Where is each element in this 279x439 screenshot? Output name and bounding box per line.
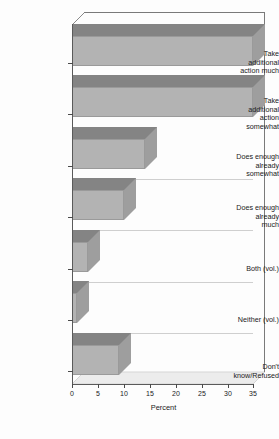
bar-front-face [72,242,88,272]
y-tick [68,114,73,115]
y-axis-label-both-vol: Both (vol.) [211,265,279,274]
y-tick [68,371,73,372]
bar-top-face [72,75,265,87]
x-tick [72,384,73,388]
y-tick [68,269,73,270]
bar-front-face [72,345,119,375]
x-tick-label: 15 [140,390,160,397]
x-tick [150,384,151,388]
y-axis-label-does-enough-already-somewhat: Does enough already somewhat [211,153,279,179]
y-tick [68,320,73,321]
x-tick [124,384,125,388]
x-tick-label: 10 [114,390,134,397]
x-tick [228,384,229,388]
x-tick-label: 0 [62,390,82,397]
y-axis-label-dont-know-refused: Don't know/Refused [211,363,279,380]
x-axis-line [72,384,254,385]
bar-front-face [72,139,145,169]
y-axis-label-neither-vol: Neither (vol.) [211,316,279,325]
y-axis-label-does-enough-already-much: Does enough already much [211,204,279,230]
y-axis-label-take-additional-action-somewhat: Take additional action somewhat [211,97,279,131]
y-axis-label-take-additional-action-much: Take additional action much [211,50,279,76]
x-tick [98,384,99,388]
x-tick [176,384,177,388]
bar-top-face [72,24,265,36]
x-axis-title: Percent [0,403,279,412]
gridline [72,282,253,283]
y-axis-line [72,24,73,384]
x-tick [202,384,203,388]
y-tick [68,217,73,218]
x-tick-label: 5 [88,390,108,397]
x-tick-label: 25 [192,390,212,397]
x-tick-label: 35 [243,390,263,397]
x-tick-label: 30 [218,390,238,397]
bar-front-face [72,190,124,220]
plot-frame-top [84,12,265,13]
x-tick [253,384,254,388]
y-tick [68,63,73,64]
y-tick [68,166,73,167]
x-tick-label: 20 [166,390,186,397]
chart-container: Take additional action much Take additio… [0,0,279,439]
bar-top-face [72,127,157,139]
x-axis-title-text: Percent [151,403,176,412]
